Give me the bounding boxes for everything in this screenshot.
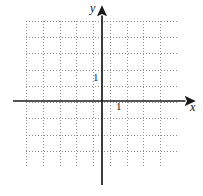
x-axis-label: x (190, 101, 195, 113)
x-axis-unit-tick-label: 1 (116, 101, 122, 112)
axes-layer (0, 0, 203, 196)
y-axis-unit-tick-label: 1 (93, 72, 99, 83)
coordinate-plane-figure: 1 1 y x (0, 0, 203, 196)
y-axis-label: y (90, 2, 95, 14)
